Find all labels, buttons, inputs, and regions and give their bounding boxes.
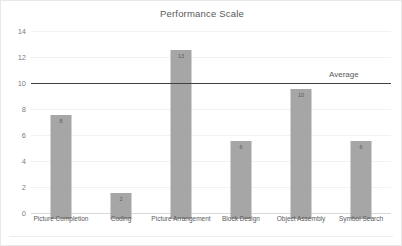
x-axis-category-label: Symbol Search <box>331 215 391 224</box>
x-axis-category-label: Block Design <box>211 215 271 224</box>
x-axis-category-label: Object Assembly <box>271 215 331 224</box>
bar-value-label: 10 <box>291 92 312 98</box>
bar[interactable]: 13 <box>171 50 192 219</box>
x-axis-category-label: Picture Arrangement <box>151 215 211 224</box>
bar[interactable]: 6 <box>351 141 372 219</box>
y-axis-tick-label: 4 <box>22 157 26 166</box>
y-axis-tick-label: 0 <box>22 209 26 218</box>
bar-series: 82136106 <box>31 31 391 219</box>
bar-value-label: 6 <box>351 144 372 150</box>
bar-slot: 8 <box>31 37 91 219</box>
bar-value-label: 6 <box>231 144 252 150</box>
y-axis-tick-label: 14 <box>18 27 26 36</box>
bar[interactable]: 8 <box>51 115 72 219</box>
bar-value-label: 8 <box>51 118 72 124</box>
average-line-label: Average <box>329 70 359 79</box>
y-axis-tick-label: 12 <box>18 53 26 62</box>
plot-area: 02468101214 82136106 Average <box>31 31 391 219</box>
bar-value-label: 13 <box>171 53 192 59</box>
x-axis-category-label: Coding <box>91 215 151 224</box>
chart-container: Performance Scale 02468101214 82136106 A… <box>0 0 402 246</box>
x-axis-category-labels: Picture CompletionCodingPicture Arrangem… <box>31 215 391 243</box>
bar-slot: 2 <box>91 37 151 219</box>
bar-slot: 13 <box>151 37 211 219</box>
y-axis-tick-label: 8 <box>22 105 26 114</box>
bar-value-label: 2 <box>111 196 132 202</box>
y-axis-tick-label: 2 <box>22 183 26 192</box>
chart-title: Performance Scale <box>1 8 402 19</box>
average-reference-line <box>31 83 391 84</box>
bar-slot: 10 <box>271 37 331 219</box>
y-axis-tick-label: 10 <box>18 79 26 88</box>
bottom-divider <box>9 236 393 237</box>
x-axis-category-label: Picture Completion <box>31 215 91 224</box>
bar-slot: 6 <box>211 37 271 219</box>
y-axis-tick-label: 6 <box>22 131 26 140</box>
bar[interactable]: 10 <box>291 89 312 219</box>
bar[interactable]: 6 <box>231 141 252 219</box>
bar-slot: 6 <box>331 37 391 219</box>
